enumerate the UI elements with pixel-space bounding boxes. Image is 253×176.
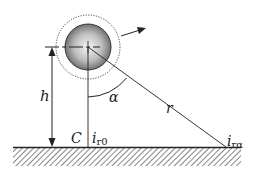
angle-arc bbox=[88, 78, 127, 97]
label-current-alpha: irα bbox=[227, 133, 243, 150]
label-current-zero: ir0 bbox=[92, 130, 108, 147]
velocity-arrow-icon bbox=[121, 27, 146, 36]
label-height: h bbox=[40, 87, 50, 105]
label-point-c: C bbox=[71, 130, 82, 146]
sphere-ground-diagram: h α r C ir0 irα bbox=[0, 0, 253, 176]
label-angle: α bbox=[109, 89, 119, 105]
ground-hatching bbox=[13, 148, 241, 166]
